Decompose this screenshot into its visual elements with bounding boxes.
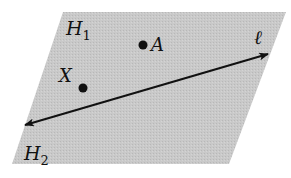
point-a-label: A (149, 34, 164, 55)
line-label: ℓ (254, 26, 262, 48)
point-a (139, 41, 148, 50)
halfplane-h2-name: H (23, 142, 41, 164)
half-plane-diagram: ℓ H1 H2 A X (0, 0, 291, 178)
halfplane-h1-name: H (65, 17, 83, 39)
halfplane-h2-subscript: 2 (41, 153, 49, 168)
point-x (79, 84, 88, 93)
halfplane-h1-subscript: 1 (83, 28, 91, 43)
point-x-label: X (57, 65, 73, 86)
